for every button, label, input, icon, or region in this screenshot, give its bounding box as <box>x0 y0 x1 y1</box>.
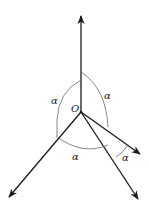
angle-label-upper-right: α <box>104 90 111 101</box>
ray-lower-left <box>9 112 81 197</box>
vector-angle-diagram: O α α α α <box>0 0 149 215</box>
ray-lower-right <box>81 112 138 199</box>
origin-point <box>80 111 83 114</box>
diagram-canvas: O α α α α <box>0 0 149 215</box>
angle-label-lower-right: α <box>122 152 129 163</box>
angle-label-bottom: α <box>72 151 79 162</box>
ray-right <box>81 112 140 154</box>
angle-label-left: α <box>51 95 58 106</box>
origin-label: O <box>71 103 79 114</box>
